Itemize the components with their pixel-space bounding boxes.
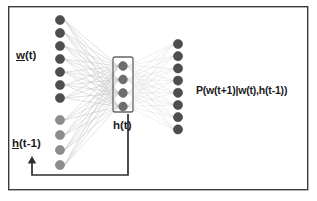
- input-word-label-underlined: w: [16, 49, 25, 61]
- network-edge: [65, 93, 119, 150]
- network-edge: [128, 56, 174, 66]
- network-edge: [65, 80, 119, 151]
- network-node: [173, 39, 182, 48]
- network-node: [119, 62, 128, 71]
- network-edge: [128, 80, 174, 106]
- hidden-layer-nodes: [119, 62, 128, 111]
- network-edge: [128, 44, 174, 66]
- network-edge: [128, 66, 174, 117]
- network-node: [55, 145, 64, 154]
- network-edge: [128, 81, 174, 107]
- network-edge: [65, 107, 119, 136]
- network-node: [55, 28, 64, 37]
- input-word-label-rest: (t): [25, 49, 37, 61]
- network-node: [173, 76, 182, 85]
- network-edge: [65, 80, 119, 166]
- figure-border: [9, 7, 308, 190]
- network-edge: [65, 59, 119, 66]
- network-node: [173, 125, 182, 134]
- input-word-layer-nodes: [55, 15, 64, 102]
- network-node: [55, 67, 64, 76]
- network-node: [55, 15, 64, 24]
- network-node: [55, 41, 64, 50]
- network-edge: [65, 66, 119, 150]
- network-node: [55, 160, 64, 169]
- hidden-layer-label: h(t): [113, 120, 132, 132]
- input-context-label: h(t-1): [12, 138, 41, 150]
- network-node: [55, 130, 64, 139]
- network-edge: [65, 80, 119, 136]
- network-edge: [65, 33, 119, 66]
- network-node: [173, 64, 182, 73]
- network-node: [55, 93, 64, 102]
- network-node: [173, 100, 182, 109]
- network-diagram-canvas: [0, 0, 317, 201]
- network-node: [119, 75, 128, 84]
- network-node: [173, 52, 182, 61]
- output-probability-label: P(w(t+1)|w(t),h(t-1)): [196, 85, 287, 96]
- output-layer-nodes: [173, 39, 182, 134]
- rnn-architecture-figure: w(t) h(t-1) h(t) P(w(t+1)|w(t),h(t-1)): [0, 0, 317, 201]
- feedback-arrowhead-icon: [28, 156, 36, 164]
- input-context-layer-nodes: [55, 115, 64, 169]
- network-node: [119, 102, 128, 111]
- network-edge: [65, 20, 119, 66]
- edges-input-to-hidden: [65, 20, 119, 165]
- input-word-label: w(t): [16, 50, 36, 62]
- network-node: [55, 115, 64, 124]
- network-node: [55, 54, 64, 63]
- network-node: [119, 89, 128, 98]
- network-edge: [128, 107, 174, 130]
- network-node: [173, 88, 182, 97]
- edges-hidden-to-output: [128, 44, 174, 129]
- input-context-label-rest: (t-1): [19, 137, 41, 149]
- input-context-label-underlined: h: [12, 137, 19, 149]
- network-node: [173, 113, 182, 122]
- network-node: [55, 80, 64, 89]
